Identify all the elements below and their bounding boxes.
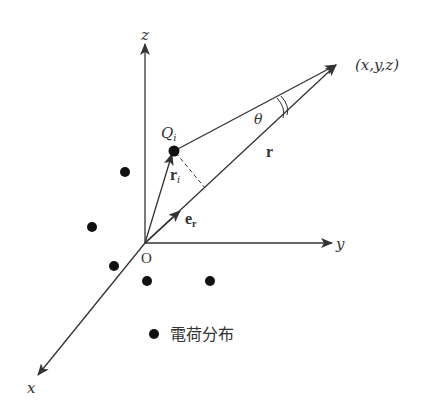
coordinate-diagram: z y x O (x,y,z) Qi ri er r θ 電荷分布 <box>0 0 434 417</box>
angle-theta-label: θ <box>254 111 263 127</box>
vector-ri-label: ri <box>170 166 180 185</box>
charge-dot <box>120 167 130 177</box>
vector-r-minus-ri <box>174 65 336 151</box>
y-axis-label: y <box>335 235 345 253</box>
charge-dot <box>205 276 215 286</box>
charge-dot <box>87 222 97 232</box>
x-axis-label: x <box>27 379 36 397</box>
point-label: (x,y,z) <box>355 56 399 74</box>
legend-label: 電荷分布 <box>170 325 234 344</box>
vector-r-label: r <box>266 143 273 160</box>
dashed-projection <box>176 153 205 188</box>
unit-vector-er-label: er <box>185 210 197 229</box>
charge-dot-qi <box>169 146 180 157</box>
charge-label: Qi <box>161 124 177 143</box>
charge-dot <box>109 261 119 271</box>
charge-dot <box>142 276 152 286</box>
x-axis <box>38 243 145 375</box>
z-axis-label: z <box>140 26 149 44</box>
legend-dot <box>149 329 159 339</box>
origin-label: O <box>141 250 152 266</box>
